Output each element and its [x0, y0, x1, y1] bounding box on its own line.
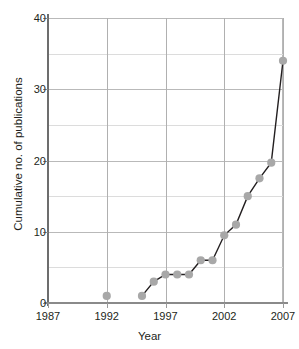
data-point-2004-15 — [244, 192, 252, 200]
data-point-2001-6 — [208, 256, 216, 264]
data-point-2007-34 — [279, 57, 287, 65]
chart-figure: 010203040 19871992199720022007 Cumulativ… — [0, 0, 299, 349]
data-point-1995-1 — [138, 292, 146, 300]
data-series-layer — [0, 0, 299, 349]
data-point-1992-1 — [103, 292, 111, 300]
data-point-2003-11 — [232, 221, 240, 229]
data-point-2006-19.7 — [267, 159, 275, 167]
x-axis-title: Year — [0, 330, 299, 342]
data-point-2000-6 — [197, 256, 205, 264]
data-point-2005-17.5 — [255, 174, 263, 182]
data-point-2002-9.5 — [220, 231, 228, 239]
data-point-1999-4 — [185, 270, 193, 278]
data-point-1998-4 — [173, 270, 181, 278]
y-axis-title: Cumulative no. of publications — [12, 44, 24, 264]
data-point-1996-3 — [150, 278, 158, 286]
data-point-1997-4 — [161, 270, 169, 278]
